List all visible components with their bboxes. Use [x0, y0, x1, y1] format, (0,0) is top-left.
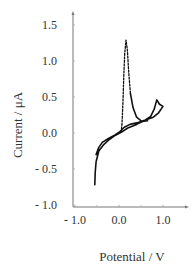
- y-tick-label: 0.0: [42, 126, 57, 140]
- series-line-dashed: [121, 40, 130, 132]
- series-line-solid-tail: [130, 93, 147, 121]
- series-line-solid: [95, 100, 163, 185]
- y-ticks: 1.51.00.50.0- 0.5- 1.0: [35, 18, 75, 212]
- x-ticks: - 1.00.01.0: [64, 205, 171, 227]
- axes: [72, 11, 190, 209]
- x-tick-label: 1.0: [156, 213, 171, 227]
- y-tick-label: - 1.0: [35, 198, 57, 212]
- cyclic-voltammogram-chart: - 1.00.01.0 1.51.00.50.0- 0.5- 1.0 Poten…: [0, 0, 194, 272]
- x-axis-arrow-icon: [185, 206, 189, 209]
- y-tick-label: 1.5: [42, 18, 57, 32]
- y-tick-label: 1.0: [42, 54, 57, 68]
- y-axis-title: Current / μA: [10, 91, 25, 158]
- x-axis-title: Potential / V: [99, 249, 165, 264]
- x-tick-label: - 1.0: [64, 213, 86, 227]
- plot-series: [95, 40, 163, 185]
- y-axis-arrow-icon: [72, 11, 75, 15]
- y-tick-label: 0.5: [42, 90, 57, 104]
- x-tick-label: 0.0: [112, 213, 127, 227]
- y-tick-label: - 0.5: [35, 162, 57, 176]
